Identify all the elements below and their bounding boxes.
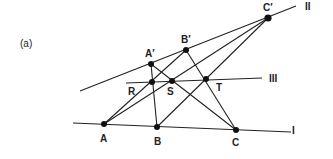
label-R: R bbox=[128, 87, 135, 97]
point-A-prime bbox=[148, 61, 154, 67]
label-C-prime: C′ bbox=[263, 3, 273, 13]
label-C: C bbox=[232, 138, 239, 148]
line-B-Cprime bbox=[157, 18, 268, 127]
label-line-III: III bbox=[269, 74, 277, 84]
point-B bbox=[154, 124, 160, 130]
label-S: S bbox=[167, 87, 174, 97]
point-C-prime bbox=[264, 14, 271, 21]
label-A-prime: A′ bbox=[145, 49, 155, 59]
point-S bbox=[169, 78, 175, 84]
label-B-prime: B′ bbox=[181, 35, 191, 45]
label-T: T bbox=[216, 83, 222, 93]
line-B-Aprime bbox=[151, 64, 157, 127]
point-A bbox=[101, 121, 107, 127]
label-B: B bbox=[154, 137, 161, 147]
point-B-prime bbox=[183, 47, 189, 53]
line-C-Bprime bbox=[186, 50, 236, 130]
line-III bbox=[126, 78, 262, 83]
point-R bbox=[149, 79, 155, 85]
pappus-diagram bbox=[0, 0, 333, 159]
label-line-II: II bbox=[305, 2, 311, 12]
point-T bbox=[203, 76, 209, 82]
label-line-I: I bbox=[292, 126, 295, 136]
point-C bbox=[233, 127, 239, 133]
label-A: A bbox=[100, 134, 107, 144]
